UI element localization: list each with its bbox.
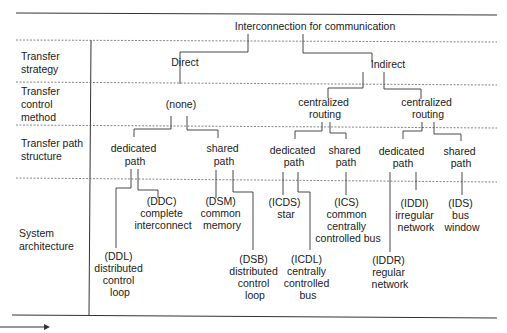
label-column-divider [89,40,91,315]
connector-routing2-shared [434,122,461,141]
arch-ddc: (DDC) complete interconnect [134,195,191,231]
node-centralized-routing-1: centralized routing [298,96,352,120]
connector-none-dedicated [134,116,171,137]
arch-dsm: (DSM) common memory [200,195,243,231]
node-centralized-routing-2: centralized routing [401,96,455,120]
node-indirect: Indirect [371,58,406,70]
arch-dsb: (DSB) distributed control loop [229,253,280,301]
arch-ddl: (DDL) distributed control loop [94,250,145,298]
row-label-transfer-strategy: Transfer strategy [21,50,63,75]
arch-ids: (IDS) bus window [443,197,479,233]
node-direct: Direct [171,56,199,68]
top-rule [16,13,497,15]
arch-ics: (ICS) common centrally controlled bus [315,196,380,244]
connector-indirect-routing1 [328,72,363,98]
connector-routing2-dedicated [403,122,422,139]
connector-root-indirect [303,34,372,62]
row-label-transfer-path-structure: Transfer path structure [21,137,86,162]
connector-routing1-dedicated [295,122,322,139]
connector-none-shared [187,116,218,138]
connector-indirect-routing2 [384,72,421,99]
arch-icdl: (ICDL) centrally controlled bus [284,253,332,301]
connector-to-ddl [116,169,131,248]
row-label-transfer-control-method: Transfer control method [21,85,63,123]
row-separator [16,125,497,128]
row-label-system-architecture: System architecture [19,227,74,252]
node-indirect1-dedicated-path: dedicated path [270,144,318,168]
interconnection-taxonomy-diagram: Transfer strategy Transfer control metho… [0,0,507,333]
node-indirect1-shared-path: shared path [328,144,363,168]
root-node-title: Interconnection for communication [235,20,396,32]
arch-iddr: (IDDR) regular network [372,254,410,290]
row-separator [16,82,497,85]
arrow-head-icon [44,324,50,330]
row-separator [16,40,497,42]
connector-to-icdl [298,172,310,250]
arch-iddi: (IDDI) irregular network [395,197,436,233]
connector-routing1-shared [330,122,346,139]
arch-icds: (ICDS) star [268,196,303,220]
node-indirect2-shared-path: shared path [443,145,478,169]
connector-to-ddc [138,169,158,198]
node-direct-shared-path: shared path [206,142,241,167]
node-indirect2-dedicated-path: dedicated path [379,145,427,169]
bottom-rule [12,315,497,318]
node-none: (none) [166,98,196,110]
node-direct-dedicated-path: dedicated path [111,142,159,167]
row-separator [16,178,497,182]
